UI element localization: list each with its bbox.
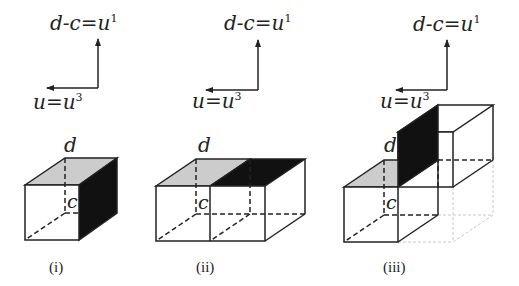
panel-iii: d-c=u1 u=u3 xyxy=(344,12,493,276)
axes-ii: d-c=u1 u=u3 xyxy=(192,11,291,113)
cube-iii xyxy=(344,105,493,242)
axes-i: d-c=u1 u=u3 xyxy=(33,11,117,114)
label-c: c xyxy=(198,191,209,213)
caption: (i) xyxy=(49,259,63,276)
cube-ii xyxy=(156,159,305,241)
label-c: c xyxy=(67,190,78,212)
label-d: d xyxy=(64,133,77,157)
axis-left-label: u=u3 xyxy=(33,90,83,114)
axis-up-label: d-c=u1 xyxy=(50,11,117,35)
label-d: d xyxy=(198,133,211,157)
panel-i: d-c=u1 u=u3 d c (i) xyxy=(25,11,117,276)
label-c: c xyxy=(386,191,397,213)
axes-iii: d-c=u1 u=u3 xyxy=(380,12,480,113)
panel-ii: d-c=u1 u=u3 d c (ii) xyxy=(156,11,305,276)
axis-left-label: u=u3 xyxy=(192,89,242,113)
caption: (ii) xyxy=(196,259,214,276)
axis-left-label: u=u3 xyxy=(380,89,430,113)
axis-up-label: d-c=u1 xyxy=(224,11,291,35)
label-d: d xyxy=(384,133,397,157)
axis-up-label: d-c=u1 xyxy=(413,12,480,36)
cube-diagram: d-c=u1 u=u3 d c (i) d-c=u1 u=u3 xyxy=(0,0,519,286)
caption: (iii) xyxy=(383,259,406,276)
